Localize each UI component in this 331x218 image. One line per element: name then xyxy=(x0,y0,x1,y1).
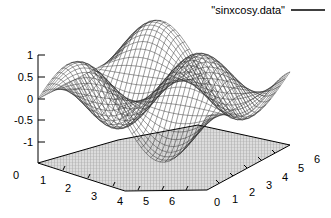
y-tick-label: 1 xyxy=(232,193,238,205)
legend: "sinxcosy.data" xyxy=(211,4,325,16)
x-tick-label: 5 xyxy=(143,195,149,207)
z-base-label: 0 xyxy=(13,169,19,181)
y-tick-label: 6 xyxy=(314,153,320,165)
mesh-line xyxy=(98,65,269,93)
gnuplot-surface-chart: 1 0.5 0 -0.5 -1 0 1 2 3 4 5 6 0 1 2 3 4 … xyxy=(0,0,331,218)
plot-canvas: 1 0.5 0 -0.5 -1 0 1 2 3 4 5 6 0 1 2 3 4 … xyxy=(0,0,331,218)
x-tick-label: 1 xyxy=(40,174,46,186)
z-axis xyxy=(38,55,45,163)
x-tick-label: 2 xyxy=(65,182,71,194)
y-tick-label: 3 xyxy=(266,179,272,191)
z-tick-label: 1 xyxy=(27,49,33,61)
y-tick-label: 5 xyxy=(298,162,304,174)
legend-entry-label: "sinxcosy.data" xyxy=(211,4,285,16)
y-tick-label: 2 xyxy=(249,186,255,198)
y-tick-label: 4 xyxy=(282,171,288,183)
z-tick-label: 0 xyxy=(27,93,33,105)
x-tick-label: 3 xyxy=(91,190,97,202)
y-tick-label: 0 xyxy=(214,196,220,208)
mesh-line xyxy=(62,86,232,116)
z-tick-labels: 1 0.5 0 -0.5 -1 0 xyxy=(13,49,33,181)
x-tick-label: 6 xyxy=(169,195,175,207)
x-tick-label: 4 xyxy=(117,195,123,207)
z-tick-label: -1 xyxy=(23,136,33,148)
z-tick-label: 0.5 xyxy=(18,71,33,83)
z-tick-label: -0.5 xyxy=(14,114,33,126)
